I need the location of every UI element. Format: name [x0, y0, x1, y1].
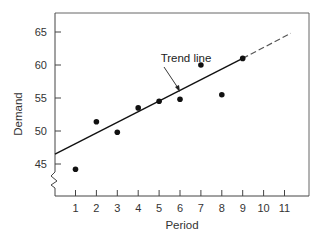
y-axis-ticks: 4550556065: [35, 26, 61, 170]
x-tick-label: 5: [156, 202, 162, 214]
data-point: [94, 119, 100, 125]
data-point: [219, 92, 225, 98]
y-tick-label: 55: [35, 92, 47, 104]
x-tick-label: 6: [177, 202, 183, 214]
data-point: [73, 166, 79, 172]
data-point: [135, 105, 141, 111]
trend-line-forecast: [243, 33, 291, 58]
y-axis-title: Demand: [12, 92, 24, 135]
data-point: [115, 130, 121, 136]
data-point: [156, 99, 162, 105]
y-tick-label: 50: [35, 125, 47, 137]
x-tick-label: 10: [257, 202, 269, 214]
y-tick-label: 60: [35, 59, 47, 71]
x-tick-label: 4: [135, 202, 141, 214]
x-tick-label: 11: [279, 202, 290, 214]
y-tick-label: 65: [35, 26, 47, 38]
x-axis-title: Period: [165, 219, 198, 231]
x-tick-label: 2: [93, 202, 99, 214]
annotation-label: Trend line: [161, 52, 212, 64]
data-point: [177, 97, 183, 103]
annotation-arrow: [164, 67, 178, 88]
demand-trend-chart: 4550556065 1234567891011 Period Demand T…: [0, 0, 324, 244]
trend-line: [55, 58, 243, 154]
data-point: [240, 56, 246, 62]
plot-frame: [51, 13, 309, 196]
x-axis-ticks: 1234567891011: [72, 190, 290, 214]
x-tick-label: 8: [219, 202, 225, 214]
trend-line-annotation: Trend line: [161, 52, 212, 92]
x-tick-label: 3: [114, 202, 120, 214]
y-tick-label: 45: [35, 158, 47, 170]
x-tick-label: 9: [240, 202, 246, 214]
y-axis: [51, 13, 57, 196]
x-tick-label: 1: [72, 202, 78, 214]
x-tick-label: 7: [198, 202, 204, 214]
data-points: [73, 56, 246, 172]
